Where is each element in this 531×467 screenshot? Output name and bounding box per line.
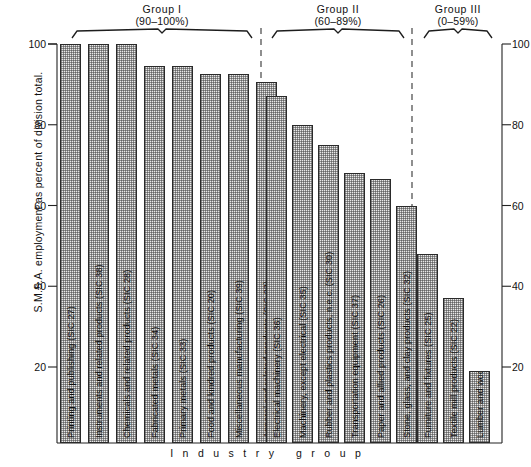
bar-14: Stone, glass, and clay products (SIC 32) — [396, 206, 417, 444]
group-2-title: Group II (60–89%) — [268, 3, 408, 27]
bar-label-16: Textile mill products (SIC 22) — [449, 319, 458, 438]
bar-13: Paper and allied products (SIC 26) — [370, 179, 391, 443]
bar-label-6: Food and kindred products (SIC 20) — [206, 290, 215, 438]
bar-17: Lumber and wood products (SIC 24) — [469, 371, 490, 443]
group-1-name: Group I — [142, 3, 181, 15]
bar-label-17: Lumber and wood products (SIC 24) — [475, 371, 484, 438]
bar-12: Transportation equipment (SIC 37) — [344, 173, 365, 443]
right-axis-tick-20: 20 — [512, 362, 531, 372]
bar-9: Electrical machinery (SIC 36) — [266, 96, 287, 443]
group-2-range: (60–89%) — [268, 15, 408, 27]
bar-2: Instruments and related products (SIC 38… — [88, 44, 109, 443]
left-axis-tick-20: 20 — [14, 362, 46, 372]
bar-1: Printing and publishing (SIC 27) — [60, 44, 81, 443]
left-axis-tick-80: 80 — [14, 120, 46, 130]
right-axis-tick-80: 80 — [512, 120, 531, 130]
bar-label-4: Fabricated metals (SIC 34) — [150, 327, 159, 438]
bar-3: Chemicals and related products (SIC 28) — [116, 44, 137, 443]
bar-label-10: Machinery, except electrical (SIC 35) — [298, 286, 307, 438]
left-axis-tick-60: 60 — [14, 201, 46, 211]
bar-label-11: Rubber and plastics products, n.e.c. (SI… — [324, 252, 333, 438]
bar-6: Food and kindred products (SIC 20) — [200, 74, 221, 443]
left-axis-tick-100: 100 — [14, 39, 46, 49]
bar-label-15: Furniture and fixtures (SIC 25) — [423, 312, 432, 438]
bar-chart-figure: Group I (90–100%) Group II (60–89%) Grou… — [0, 0, 531, 467]
bar-label-5: Primary metals (SIC 33) — [178, 339, 187, 438]
group-2-name: Group II — [317, 3, 360, 15]
group-1-title: Group I (90–100%) — [92, 3, 232, 27]
bar-label-9: Electrical machinery (SIC 36) — [272, 317, 281, 438]
bar-label-1: Printing and publishing (SIC 27) — [66, 306, 75, 438]
bar-10: Machinery, except electrical (SIC 35) — [292, 125, 313, 443]
bar-label-14: Stone, glass, and clay products (SIC 32) — [402, 271, 411, 438]
left-axis-tick-40: 40 — [14, 281, 46, 291]
bar-11: Rubber and plastics products, n.e.c. (SI… — [318, 145, 339, 443]
x-axis-label: Industry group — [0, 447, 531, 459]
bar-15: Furniture and fixtures (SIC 25) — [417, 254, 438, 443]
bar-label-2: Instruments and related products (SIC 38… — [94, 264, 103, 438]
bar-label-3: Chemicals and related products (SIC 28) — [122, 270, 131, 438]
bar-16: Textile mill products (SIC 22) — [443, 298, 464, 443]
group-3-name: Group III — [435, 3, 481, 15]
bar-7: Miscellaneous manufacturing (SIC 39) — [228, 74, 249, 443]
group-3-title: Group III (0–59%) — [388, 3, 528, 27]
bar-label-13: Paper and allied products (SIC 26) — [376, 295, 385, 438]
right-axis-tick-100: 100 — [512, 39, 531, 49]
bar-label-7: Miscellaneous manufacturing (SIC 39) — [234, 280, 243, 438]
group-3-range: (0–59%) — [388, 15, 528, 27]
bar-4: Fabricated metals (SIC 34) — [144, 66, 165, 443]
right-axis-tick-40: 40 — [512, 281, 531, 291]
right-axis-tick-60: 60 — [512, 201, 531, 211]
bar-label-12: Transportation equipment (SIC 37) — [350, 295, 359, 438]
bar-5: Primary metals (SIC 33) — [172, 66, 193, 443]
group-1-range: (90–100%) — [92, 15, 232, 27]
